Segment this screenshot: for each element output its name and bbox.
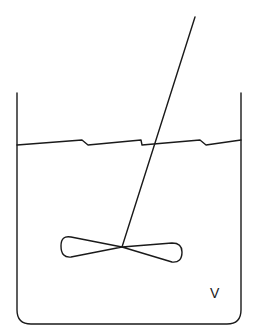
impeller bbox=[61, 237, 182, 262]
impeller-blade-right bbox=[122, 243, 182, 262]
stirrer-shaft bbox=[122, 17, 195, 247]
vessel-outline bbox=[17, 93, 241, 324]
impeller-blade-left bbox=[61, 237, 122, 257]
liquid-surface-line bbox=[17, 140, 241, 145]
volume-label: V bbox=[210, 286, 219, 300]
